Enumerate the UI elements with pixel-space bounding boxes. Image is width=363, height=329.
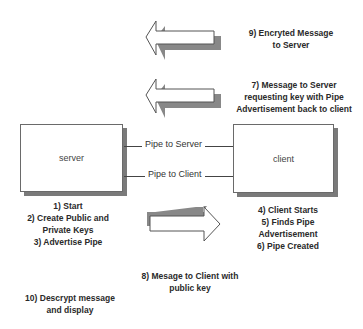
step-7-line-2: requesting key with Pipe: [224, 91, 363, 103]
server-step-1: 1) Start: [8, 200, 128, 212]
step-10-line-1: 10) Descrypt message: [15, 292, 125, 304]
server-steps: 1) Start 2) Create Public and Private Ke…: [8, 200, 128, 248]
client-steps: 4) Client Starts 5) Finds Pipe Advertise…: [238, 204, 338, 252]
client-step-4: 4) Client Starts: [238, 204, 338, 216]
client-label: client: [273, 154, 294, 164]
left-arrow-icon-step-9: [144, 18, 224, 60]
client-step-5: 5) Finds Pipe: [238, 216, 338, 228]
step-10-label: 10) Descrypt message and display: [15, 292, 125, 316]
server-label: server: [59, 153, 84, 163]
client-step-5b: Advertisement: [238, 228, 338, 240]
step-7-label: 7) Message to Server requesting key with…: [224, 79, 363, 115]
pipe-to-server-label: Pipe to Server: [142, 139, 205, 149]
step-8-line-2: public key: [130, 282, 250, 294]
left-arrow-icon-step-7: [144, 76, 224, 118]
client-step-6: 6) Pipe Created: [238, 240, 338, 252]
server-step-2b: Private Keys: [8, 224, 128, 236]
server-node: server: [20, 124, 123, 192]
step-7-line-1: 7) Message to Server: [224, 79, 363, 91]
client-node: client: [233, 124, 334, 193]
server-step-3: 3) Advertise Pipe: [8, 236, 128, 248]
step-9-line-1: 9) Encryted Message: [236, 27, 346, 39]
right-arrow-icon-step-8: [144, 204, 224, 246]
step-8-line-1: 8) Mesage to Client with: [130, 270, 250, 282]
step-7-line-3: Advertisement back to client: [224, 103, 363, 115]
step-8-label: 8) Mesage to Client with public key: [130, 270, 250, 294]
step-9-line-2: to Server: [236, 39, 346, 51]
pipe-to-client-label: Pipe to Client: [145, 169, 205, 179]
step-9-label: 9) Encryted Message to Server: [236, 27, 346, 51]
step-10-line-2: and display: [15, 304, 125, 316]
server-step-2: 2) Create Public and: [8, 212, 128, 224]
